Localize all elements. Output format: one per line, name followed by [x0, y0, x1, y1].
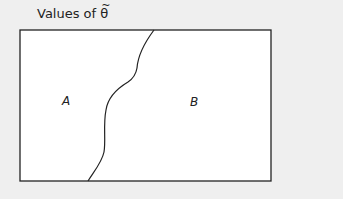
- region-diagram: [0, 0, 343, 199]
- region-a-label: A: [62, 94, 70, 108]
- sample-space-box: [20, 30, 271, 181]
- region-b-label: B: [190, 95, 198, 109]
